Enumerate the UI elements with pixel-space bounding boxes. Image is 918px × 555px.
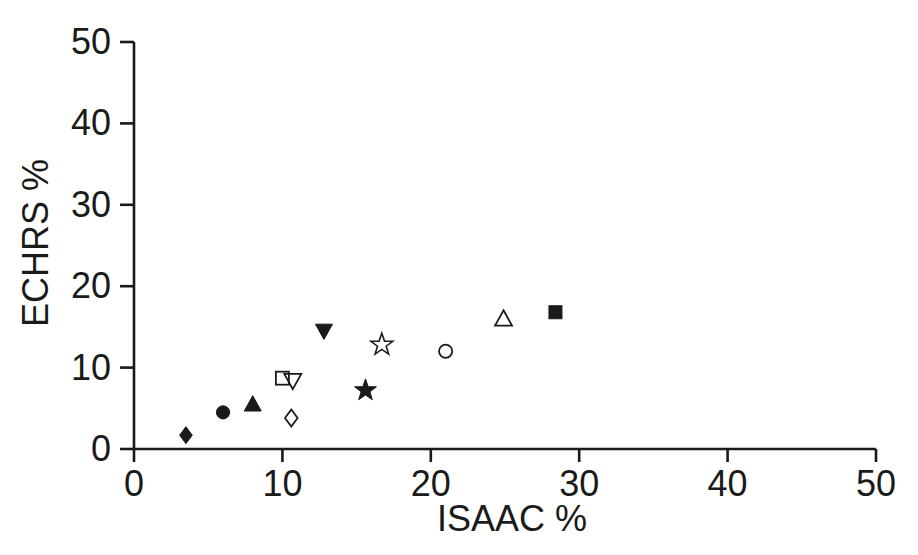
axis-tick-labels: 0102030405001020304050 <box>71 21 896 504</box>
point-filled-circle <box>216 406 229 419</box>
y-tick-label-20: 20 <box>71 265 111 306</box>
y-tick-label-30: 30 <box>71 184 111 225</box>
x-tick-label-50: 50 <box>856 463 896 504</box>
point-open-triangle-down <box>284 374 301 389</box>
x-axis-title: ISAAC % <box>437 498 587 539</box>
y-tick-label-50: 50 <box>71 21 111 62</box>
axis-lines <box>134 42 876 449</box>
x-tick-label-10: 10 <box>262 463 302 504</box>
point-open-circle <box>439 345 452 358</box>
point-open-triangle-up <box>495 310 512 325</box>
point-filled-star <box>355 379 377 400</box>
x-tick-label-0: 0 <box>124 463 144 504</box>
point-filled-square <box>549 306 562 319</box>
axes <box>134 42 876 449</box>
y-tick-label-40: 40 <box>71 102 111 143</box>
point-open-star <box>371 333 393 354</box>
point-filled-triangle-down <box>315 324 332 339</box>
y-tick-label-10: 10 <box>71 347 111 388</box>
axis-ticks <box>120 42 876 462</box>
scatter-plot-figure: 0102030405001020304050 ISAAC % ECHRS % <box>0 0 918 555</box>
y-axis-title: ECHRS % <box>15 159 56 327</box>
x-tick-label-40: 40 <box>708 463 748 504</box>
plot-canvas: 0102030405001020304050 ISAAC % ECHRS % <box>0 0 918 555</box>
point-filled-diamond <box>180 427 193 444</box>
data-points <box>180 306 562 444</box>
point-open-diamond <box>285 410 298 427</box>
point-filled-triangle-up <box>244 396 261 411</box>
y-tick-label-0: 0 <box>91 428 111 469</box>
